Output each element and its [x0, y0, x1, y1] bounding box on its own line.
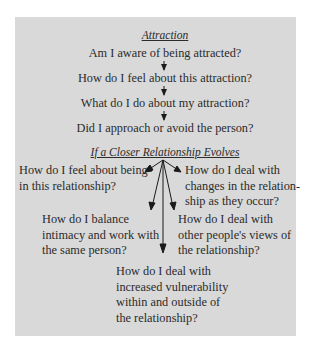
- arrow-down-icon: [161, 86, 167, 96]
- arrow-down-icon: [161, 61, 167, 71]
- flow-arrows: [0, 0, 310, 349]
- arrow-fan-icon: [145, 160, 181, 253]
- arrow-down-icon: [161, 111, 167, 121]
